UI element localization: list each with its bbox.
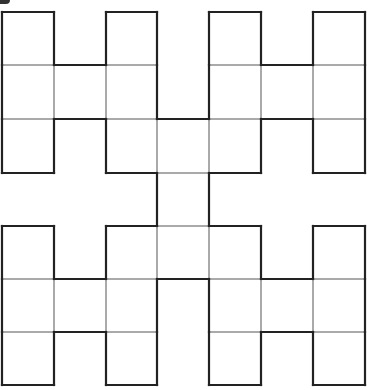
- grid-cell: [2, 332, 54, 385]
- grid-cell: [313, 119, 365, 173]
- grid-cell: [209, 332, 261, 385]
- grid-cell: [106, 332, 157, 385]
- grid-cell: [2, 226, 54, 279]
- grid-cell: [106, 279, 157, 332]
- grid-cell: [54, 279, 106, 332]
- grid-cell: [2, 65, 54, 119]
- grid-cell: [261, 65, 313, 119]
- grid-cell: [313, 65, 365, 119]
- grid-cell: [313, 12, 365, 65]
- grid-cell: [157, 226, 209, 279]
- grid-cell: [313, 226, 365, 279]
- grid-cell: [106, 12, 157, 65]
- grid-cell: [2, 279, 54, 332]
- grid-cell: [209, 65, 261, 119]
- grid-cell: [2, 119, 54, 173]
- inner-grid-lines: [2, 12, 365, 385]
- grid-cell: [157, 173, 209, 226]
- grid-cell: [313, 279, 365, 332]
- grid-cell: [2, 12, 54, 65]
- grid-cell: [261, 279, 313, 332]
- grid-cell: [106, 119, 157, 173]
- grid-cell: [54, 65, 106, 119]
- grid-cell: [313, 332, 365, 385]
- grid-cell: [106, 226, 157, 279]
- grid-cell: [106, 65, 157, 119]
- grid-cell: [209, 226, 261, 279]
- grid-cell: [209, 279, 261, 332]
- grid-cell: [157, 119, 209, 173]
- h-tree-polyomino-diagram: [0, 0, 371, 390]
- grid-cell: [209, 119, 261, 173]
- grid-cell: [209, 12, 261, 65]
